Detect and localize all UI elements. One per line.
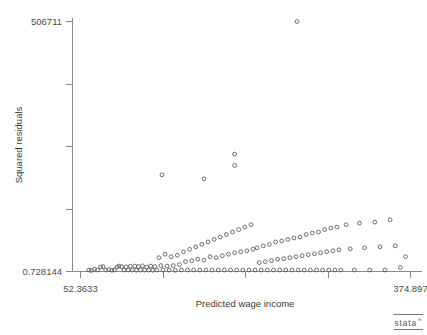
- y-axis-min-label: 0.728144: [22, 266, 62, 277]
- stata-logo-text: stata: [395, 318, 418, 328]
- stata-logo: stata™: [394, 314, 423, 330]
- scatter-plot-figure: 506711 0.728144 52.3633 374.897 Predicte…: [0, 0, 427, 335]
- y-axis-title: Squared residuals: [13, 106, 24, 183]
- x-axis-max-label: 374.897: [393, 283, 427, 294]
- x-axis-title: Predicted wage income: [196, 298, 295, 309]
- stata-logo-tm: ™: [417, 317, 422, 323]
- y-axis-max-label: 506711: [31, 16, 62, 27]
- chart-canvas: 506711 0.728144 52.3633 374.897 Predicte…: [0, 0, 427, 335]
- x-axis-min-label: 52.3633: [63, 283, 97, 294]
